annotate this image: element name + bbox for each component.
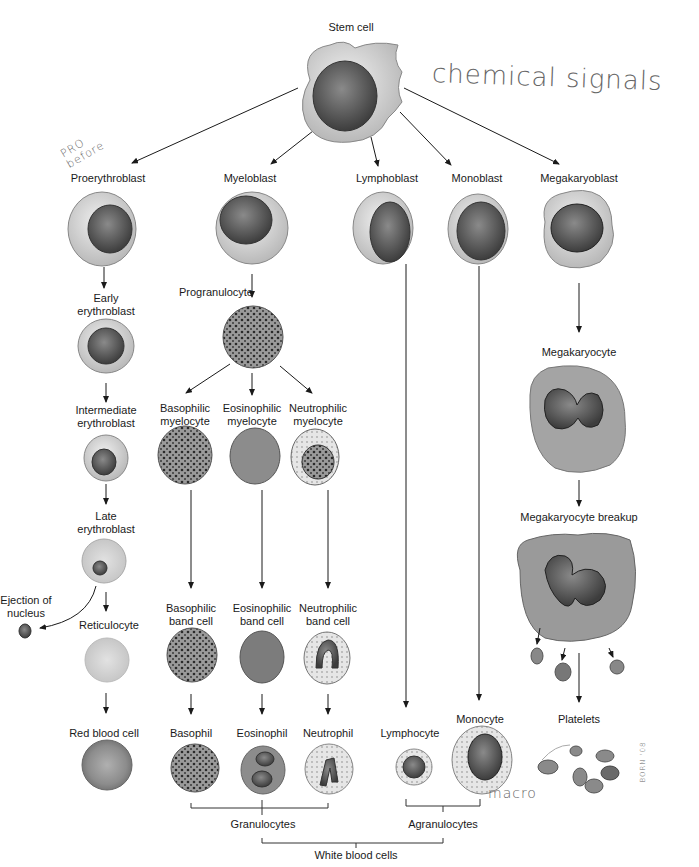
label-lymphoblast: Lymphoblast <box>356 172 418 185</box>
label-late-erythroblast: Late erythroblast <box>77 510 134 536</box>
label-reticulocyte: Reticulocyte <box>79 619 139 632</box>
megakaryocytic-cells <box>517 190 635 681</box>
platelets-cells <box>538 745 619 793</box>
label-megakaryocyte-breakup: Megakaryocyte breakup <box>520 511 637 524</box>
artist-signature: BORN '08 <box>639 741 647 782</box>
label-megakaryocyte: Megakaryocyte <box>542 346 617 359</box>
label-granulocytes: Granulocytes <box>231 818 296 831</box>
handwritten-macro: macro <box>488 785 537 801</box>
label-neutrophilic-band-cell: Neutrophilic band cell <box>299 602 357 628</box>
label-monoblast: Monoblast <box>452 172 503 185</box>
label-early-erythroblast: Early erythroblast <box>77 292 134 318</box>
label-eosinophilic-band-cell: Eosinophilic band cell <box>233 602 292 628</box>
label-intermediate-erythroblast: Intermediate erythroblast <box>75 404 136 430</box>
label-agranulocytes: Agranulocytes <box>408 818 478 831</box>
label-red-blood-cell: Red blood cell <box>69 727 139 740</box>
label-ejection-of-nucleus: Ejection of nucleus <box>0 594 51 620</box>
label-basophilic-band-cell: Basophilic band cell <box>166 602 216 628</box>
label-basophil: Basophil <box>170 727 212 740</box>
label-eosinophil: Eosinophil <box>237 727 288 740</box>
stem-cell <box>302 42 402 142</box>
label-basophilic-myelocyte: Basophilic myelocyte <box>160 402 210 428</box>
label-myeloblast: Myeloblast <box>224 172 277 185</box>
label-monocyte: Monocyte <box>456 713 504 726</box>
label-neutrophilic-myelocyte: Neutrophilic myelocyte <box>289 402 347 428</box>
label-white-blood-cells: White blood cells <box>314 849 397 862</box>
erythroid-cells <box>19 192 136 790</box>
label-proerythroblast: Proerythroblast <box>71 172 146 185</box>
label-eosinophilic-myelocyte: Eosinophilic myelocyte <box>223 402 282 428</box>
label-megakaryoblast: Megakaryoblast <box>540 172 618 185</box>
hematopoiesis-diagram: Stem cell Proerythroblast Myeloblast Lym… <box>0 0 699 867</box>
lympho-mono-arrows <box>406 264 479 707</box>
label-stem-cell: Stem cell <box>328 21 373 34</box>
lympho-mono-cells <box>353 192 512 794</box>
myeloid-cells <box>158 192 353 794</box>
label-progranulocyte: Progranulocyte <box>179 286 253 299</box>
label-platelets: Platelets <box>558 713 600 726</box>
label-neutrophil: Neutrophil <box>303 727 353 740</box>
label-lymphocyte: Lymphocyte <box>381 727 440 740</box>
